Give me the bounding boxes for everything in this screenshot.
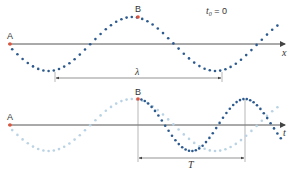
wave-diagram: A B t0 = 0 x λ A B t T — [0, 0, 297, 171]
top-panel: A B t0 = 0 x λ — [7, 4, 287, 82]
t-axis-label: t — [283, 127, 286, 138]
point-b-label-bottom: B — [135, 87, 141, 97]
point-b-marker — [136, 15, 140, 19]
point-a-marker-bottom — [8, 123, 12, 127]
point-b-label: B — [135, 4, 141, 14]
period-label: T — [188, 159, 195, 170]
bottom-panel: A B t T — [7, 87, 286, 170]
point-a-label: A — [7, 31, 13, 41]
point-b-marker-bottom — [136, 97, 140, 101]
time-label: t0 = 0 — [206, 5, 227, 17]
x-axis-label: x — [281, 47, 287, 58]
wavelength-label: λ — [134, 66, 140, 77]
point-a-label-bottom: A — [7, 112, 13, 122]
point-a-marker — [8, 42, 12, 46]
